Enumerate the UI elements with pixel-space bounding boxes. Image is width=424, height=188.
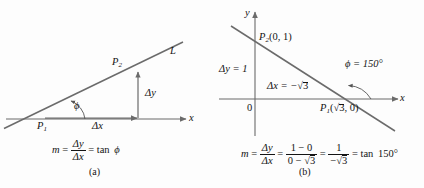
panel-b-eq-m: m (241, 148, 249, 159)
panel-b-eq-equals-1: = (251, 148, 257, 159)
panel-b-angle-arc (349, 86, 372, 100)
panel-b-eq-frac3-radicand: 3 (342, 155, 347, 166)
panel-a-eq-angle: ϕ (114, 144, 119, 155)
panel-a-point2-label: P2 (112, 57, 122, 69)
panel-a-eq-tan: tan (97, 144, 110, 155)
panel-a-eq-numerator: Δy (71, 138, 86, 151)
panel-b-eq-fraction-3: 1 −√3 (328, 142, 349, 168)
panel-b-eq-fraction-1: Δy Δx (260, 142, 275, 168)
panel-a-eq-equals-2: = (88, 144, 94, 155)
panel-a-line-label: L (170, 46, 176, 57)
panel-b-delta-x-text: Δx = − (267, 80, 297, 91)
panel-b-angle-label: ϕ = 150° (345, 59, 383, 70)
panel-b-delta-y-label: Δy = 1 (219, 64, 247, 75)
figure-container: L P2 P1 x Δy Δx ϕ m = Δy Δx = tan ϕ (a) … (0, 0, 424, 188)
panel-a-eq-m: m (52, 144, 60, 155)
panel-a-caption: (a) (89, 166, 100, 177)
panel-b-equation: m = Δy Δx = 1 − 0 0 − √3 = 1 −√3 = tan 1… (241, 142, 398, 168)
panel-b-eq-frac2-radicand: 3 (310, 155, 315, 166)
panel-b-line (231, 26, 395, 131)
panel-a-angle-label: ϕ (74, 101, 79, 112)
panel-b-eq-frac2-den-text: 0 − (288, 155, 304, 166)
panel-b-eq-frac3-sqrt: √3 (336, 155, 347, 168)
panel-b-delta-x-sqrt: √3 (297, 81, 308, 92)
panel-a-line-L (4, 42, 183, 129)
panel-a-point2-sub: 2 (118, 61, 122, 69)
panel-a-equation: m = Δy Δx = tan ϕ (52, 138, 120, 164)
panel-a-point1-sub: 1 (43, 125, 47, 133)
panel-a-graphics (4, 42, 186, 129)
panel-b-origin-label: 0 (247, 103, 252, 114)
panel-b-eq-frac2-num: 1 − 0 (286, 142, 317, 155)
panel-a-eq-equals-1: = (62, 144, 68, 155)
panel-b-eq-fraction-2: 1 − 0 0 − √3 (286, 142, 317, 168)
panel-b-eq-frac1-den: Δx (260, 155, 275, 168)
panel-b-x-axis-label: x (400, 93, 405, 104)
panel-a-delta-y-label: Δy (145, 88, 156, 99)
panel-b-point1-sqrt: √3 (333, 103, 344, 114)
panel-b-eq-angle: 150° (378, 148, 398, 159)
panel-b-point2-label: P2(0, 1) (259, 32, 292, 44)
panel-b-point1-paren-close: , 0) (344, 102, 358, 113)
panel-a-point1-label: P1 (37, 121, 47, 133)
panel-b-eq-frac3-num: 1 (328, 142, 349, 155)
panel-b-eq-equals-3: = (320, 148, 326, 159)
panel-b-eq-equals-2: = (277, 148, 283, 159)
panel-a-delta-x-label: Δx (92, 121, 103, 132)
panel-b-point1-label: P1(√3, 0) (320, 103, 358, 115)
panel-a-eq-fraction: Δy Δx (71, 138, 86, 164)
panel-b-delta-x-label: Δx = −√3 (267, 81, 308, 92)
panel-b-eq-equals-4: = (352, 148, 358, 159)
panel-b-eq-tan: tan (360, 148, 373, 159)
panel-b-point2-coords: (0, 1) (269, 31, 292, 42)
panel-a-x-axis-label: x (189, 113, 194, 124)
panel-b-eq-frac3-den: −√3 (328, 155, 349, 168)
panel-a-eq-denominator: Δx (71, 151, 86, 164)
panel-b-caption: (b) (299, 166, 311, 177)
panel-b-y-axis-label: y (245, 8, 250, 19)
panel-b-eq-frac1-num: Δy (260, 142, 275, 155)
